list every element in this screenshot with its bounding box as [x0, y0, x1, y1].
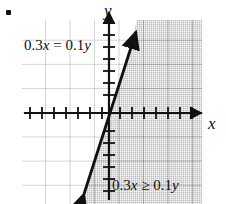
inequality-coefficient-a: 0.3 [112, 177, 131, 193]
line-equation-label: 0.3x = 0.1y [24, 38, 91, 53]
equation-variable-x: x [43, 37, 50, 53]
x-axis-label: x [208, 115, 216, 132]
inequality-variable-y: y [172, 177, 179, 193]
equation-variable-y: y [84, 37, 91, 53]
inequality-coefficient-b: 0.1 [153, 177, 172, 193]
inequality-label: 0.3x ≥ 0.1y [112, 178, 179, 193]
x-axis [24, 107, 202, 119]
equation-coefficient-a: 0.3 [24, 37, 43, 53]
y-axis-label: y [104, 2, 112, 19]
axes-and-line [0, 0, 226, 204]
equation-relation: = [53, 37, 61, 53]
equation-coefficient-b: 0.1 [65, 37, 84, 53]
inequality-relation: ≥ [141, 177, 149, 193]
inequality-variable-x: x [131, 177, 138, 193]
graph-figure: y x 0.3x = 0.1y 0.3x ≥ 0.1y [0, 0, 226, 204]
